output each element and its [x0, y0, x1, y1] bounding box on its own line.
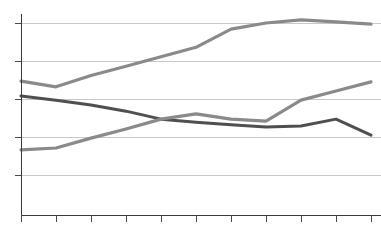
line-chart — [0, 0, 381, 233]
series-line-series-2 — [21, 96, 371, 135]
series-line-series-1 — [21, 20, 371, 87]
chart-canvas — [0, 0, 381, 233]
series-line-series-3 — [21, 82, 371, 150]
data-series-group — [21, 20, 371, 150]
